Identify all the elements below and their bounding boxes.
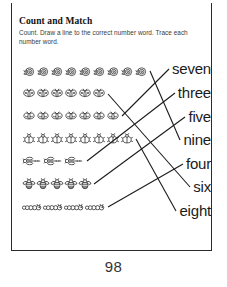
snail-icon — [36, 64, 50, 78]
row-moths — [22, 108, 120, 124]
caterpillar-icon — [64, 200, 85, 214]
bee-icon — [64, 177, 78, 191]
page-number: 98 — [0, 258, 227, 275]
moth-icon — [106, 109, 120, 123]
snail-icon — [50, 64, 64, 78]
beetle-icon — [106, 132, 120, 146]
butterfly-icon — [92, 87, 106, 101]
bee-icon — [36, 177, 50, 191]
row-caterpillars — [22, 199, 106, 215]
row-butterflies — [22, 86, 106, 102]
caterpillar-icon — [85, 200, 106, 214]
butterfly-icon — [64, 87, 78, 101]
worksheet-page: Count and Match Count. Draw a line to th… — [0, 0, 227, 287]
beetle-icon — [64, 132, 78, 146]
snail-icon — [106, 64, 120, 78]
moth-icon — [50, 109, 64, 123]
snail-icon — [120, 64, 134, 78]
bee-icon — [22, 177, 36, 191]
dragonfly-icon — [22, 154, 43, 168]
row-bees — [22, 176, 92, 192]
beetle-icon — [36, 132, 50, 146]
row-beetles — [22, 131, 134, 147]
moth-icon — [22, 109, 36, 123]
beetle-icon — [120, 132, 134, 146]
beetle-icon — [22, 132, 36, 146]
butterfly-icon — [22, 87, 36, 101]
butterfly-icon — [78, 87, 92, 101]
word-seven[interactable]: seven — [172, 60, 211, 77]
caterpillar-icon — [43, 200, 64, 214]
word-five[interactable]: five — [188, 108, 211, 125]
word-eight[interactable]: eight — [179, 202, 211, 219]
word-nine[interactable]: nine — [183, 131, 211, 148]
row-dragonflies — [22, 153, 85, 169]
moth-icon — [64, 109, 78, 123]
snail-icon — [64, 64, 78, 78]
word-four[interactable]: four — [186, 155, 211, 172]
beetle-icon — [78, 132, 92, 146]
snail-icon — [22, 64, 36, 78]
word-three[interactable]: three — [178, 84, 211, 101]
word-six[interactable]: six — [193, 178, 211, 195]
bee-icon — [50, 177, 64, 191]
butterfly-icon — [50, 87, 64, 101]
dragonfly-icon — [64, 154, 85, 168]
snail-icon — [92, 64, 106, 78]
beetle-icon — [50, 132, 64, 146]
moth-icon — [78, 109, 92, 123]
snail-icon — [78, 64, 92, 78]
moth-icon — [92, 109, 106, 123]
butterfly-icon — [36, 87, 50, 101]
row-snails — [22, 63, 148, 79]
dragonfly-icon — [43, 154, 64, 168]
bee-icon — [78, 177, 92, 191]
caterpillar-icon — [22, 200, 43, 214]
snail-icon — [134, 64, 148, 78]
moth-icon — [36, 109, 50, 123]
beetle-icon — [92, 132, 106, 146]
